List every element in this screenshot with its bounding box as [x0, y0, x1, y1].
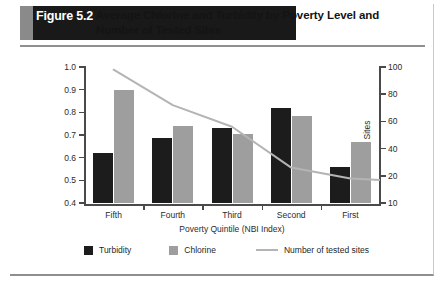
legend-item-chlorine: Chlorine [169, 245, 216, 255]
y-axis-right-tick-label: 10 [388, 198, 414, 208]
x-axis-line [84, 204, 381, 206]
x-axis-category-label: Second [261, 210, 321, 220]
bars-layer [84, 67, 380, 203]
legend-item-turbidity: Turbidity [84, 245, 131, 255]
y-axis-right-tick [381, 202, 386, 204]
chart-legend: Turbidity Chlorine Number of tested site… [84, 242, 394, 258]
legend-swatch-line [256, 249, 278, 251]
bar-chlorine-third [233, 134, 253, 203]
legend-label-tested-sites: Number of tested sites [284, 245, 369, 255]
bar-turbidity-fifth [93, 153, 113, 203]
y-axis-right-tick [381, 121, 386, 123]
bar-chlorine-fourth [173, 126, 193, 203]
bar-chlorine-second [292, 116, 312, 203]
y-axis-left-tick-label: 0.4 [50, 198, 76, 208]
bar-turbidity-third [212, 128, 232, 203]
bar-chlorine-first [351, 142, 371, 203]
y-axis-right-tick [381, 148, 386, 150]
bar-chlorine-fifth [114, 90, 134, 203]
y-axis-left-tick-label: 1.0 [50, 62, 76, 72]
figure-title: Average Chlorine and Turbidity by Povert… [96, 8, 416, 38]
bar-turbidity-second [271, 108, 291, 203]
y-axis-right-tick [381, 93, 386, 95]
legend-item-tested-sites: Number of tested sites [256, 245, 369, 255]
y-axis-left-tick-label: 0.5 [50, 175, 76, 185]
y-axis-right-tick [381, 66, 386, 68]
figure-title-line-1: Average Chlorine and Turbidity by Povert… [96, 8, 416, 23]
y-axis-left-tick-label: 0.8 [50, 107, 76, 117]
y-axis-right-tick-label: 80 [388, 89, 414, 99]
y-axis-left-tick-label: 0.6 [50, 153, 76, 163]
y-axis-right-tick [381, 175, 386, 177]
legend-swatch-turbidity [84, 246, 93, 255]
figure-header: Figure 5.2 Average Chlorine and Turbidit… [10, 4, 434, 42]
legend-label-turbidity: Turbidity [99, 245, 131, 255]
y-axis-right-tick-label: 20 [388, 171, 414, 181]
plot-area [84, 67, 380, 203]
x-axis-category-label: First [320, 210, 380, 220]
figure-header-tab [20, 6, 33, 40]
legend-label-chlorine: Chlorine [184, 245, 216, 255]
figure-container: Figure 5.2 Average Chlorine and Turbidit… [10, 4, 434, 276]
bar-turbidity-fourth [152, 138, 172, 203]
header-divider [20, 45, 425, 47]
y-axis-left-tick-label: 0.7 [50, 130, 76, 140]
x-axis-title: Poverty Quintile (NBI Index) [84, 224, 380, 234]
figure-number-label: Figure 5.2 [36, 9, 93, 23]
x-axis-category-label: Fourth [143, 210, 203, 220]
y-axis-right-tick-label: 40 [388, 144, 414, 154]
bar-turbidity-first [330, 167, 350, 203]
legend-swatch-chlorine [169, 246, 178, 255]
x-axis-category-label: Third [202, 210, 262, 220]
y-axis-right-tick-label: 100 [388, 62, 414, 72]
y-axis-right-tick-label: 60 [388, 116, 414, 126]
figure-title-line-2: Number of Tested Sites [96, 23, 416, 38]
y-axis-left-tick-label: 0.9 [50, 85, 76, 95]
x-axis-category-label: Fifth [84, 210, 144, 220]
